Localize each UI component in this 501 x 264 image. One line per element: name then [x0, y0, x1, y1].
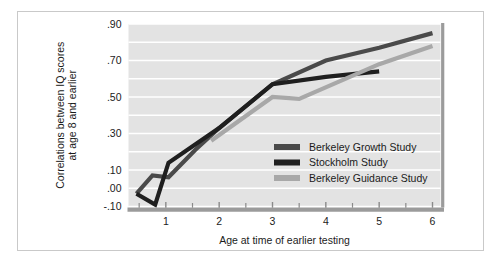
y-tick-label: .50 [107, 91, 122, 103]
y-axis-title-line-2: at age 8 and earlier [66, 70, 78, 161]
legend-swatch-2 [274, 175, 300, 181]
line-chart: 123456-.10.00.10.30.50.70.90Age at time … [0, 0, 501, 264]
y-tick-labels: -.10.00.10.30.50.70.90 [103, 18, 121, 213]
y-tick-label: .00 [107, 182, 122, 194]
chart-svg: 123456-.10.00.10.30.50.70.90Age at time … [0, 0, 501, 264]
legend-label-1: Stockholm Study [309, 156, 389, 168]
x-tick-label: 3 [270, 215, 276, 227]
y-tick-label: .30 [107, 127, 122, 139]
x-tick-label: 1 [163, 215, 169, 227]
y-tick-label: .90 [107, 18, 122, 30]
y-axis-title-line-1: Correlations between IQ scores [54, 42, 66, 189]
y-tick-label: .10 [107, 164, 122, 176]
legend-label-2: Berkeley Guidance Study [309, 172, 428, 184]
y-tick-label: .70 [107, 54, 122, 66]
x-tick-labels: 123456 [163, 215, 436, 227]
legend-label-0: Berkeley Growth Study [309, 141, 417, 153]
legend-swatch-1 [274, 160, 300, 166]
x-tick-label: 2 [216, 215, 222, 227]
x-tick-label: 4 [323, 215, 329, 227]
legend-swatch-0 [274, 144, 300, 150]
y-tick-label: -.10 [103, 200, 121, 212]
x-tick-label: 6 [430, 215, 436, 227]
x-axis-title: Age at time of earlier testing [219, 234, 350, 246]
x-tick-label: 5 [376, 215, 382, 227]
figure-root: 123456-.10.00.10.30.50.70.90Age at time … [0, 0, 501, 264]
